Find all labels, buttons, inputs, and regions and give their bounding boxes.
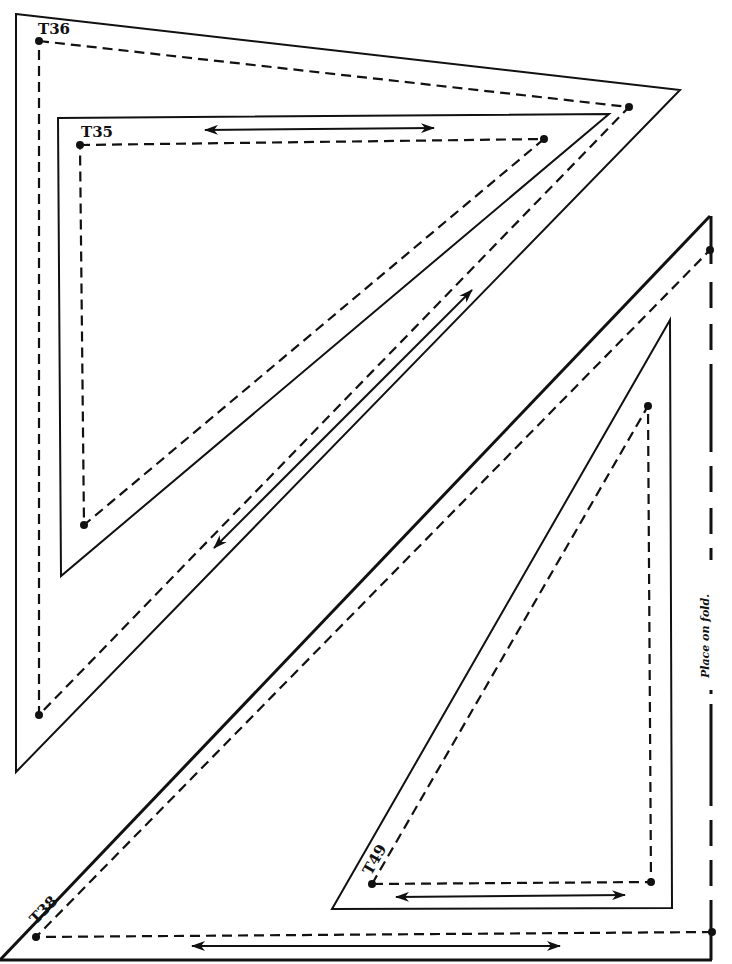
piece-label-t35: T35 (81, 123, 113, 141)
corner-dot-icon (32, 933, 40, 941)
corner-dot-icon (80, 521, 88, 529)
pattern-sheet: T36 T35 T38 T49 (0, 0, 732, 964)
corner-dot-icon (540, 135, 548, 143)
cut-line-t35 (58, 114, 609, 576)
pattern-piece-t36: T36 (16, 14, 680, 772)
seam-line-t49 (372, 406, 651, 884)
pattern-piece-t38: T38 (0, 216, 716, 960)
cut-line-t36 (16, 14, 680, 772)
corner-dot-icon (625, 103, 633, 111)
pattern-piece-t49: T49 (332, 320, 672, 909)
grainline-arrow-icon (214, 290, 472, 548)
fold-line: Place on fold. (694, 216, 720, 960)
piece-label-t36: T36 (38, 20, 70, 38)
cut-line-t49 (332, 320, 672, 909)
grainline-arrow-icon (205, 128, 434, 130)
piece-label-t49: T49 (359, 841, 391, 878)
corner-dot-icon (368, 880, 376, 888)
corner-dot-icon (35, 37, 43, 45)
corner-dot-icon (647, 878, 655, 886)
grainline-arrow-icon (396, 895, 625, 897)
fold-label: Place on fold. (699, 594, 712, 679)
pattern-piece-t35: T35 (58, 114, 609, 576)
corner-dot-icon (644, 402, 652, 410)
corner-dot-icon (35, 711, 43, 719)
piece-label-t38: T38 (26, 892, 61, 928)
corner-dot-icon (76, 141, 84, 149)
